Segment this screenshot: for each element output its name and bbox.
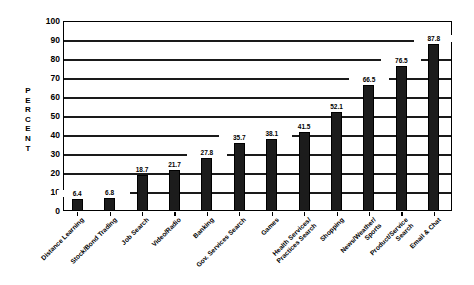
x-axis-tick (401, 212, 402, 216)
x-axis-category-label: Video/Radio (151, 216, 183, 248)
bar (201, 158, 212, 211)
y-axis-tick-label: 20 (34, 169, 60, 178)
x-axis-tick (77, 212, 78, 216)
y-axis-tick-label: 30 (34, 150, 60, 159)
x-axis-tick (239, 212, 240, 216)
x-axis-category-label: Job Search (120, 216, 151, 247)
bar-value-label: 52.1 (317, 103, 357, 110)
x-axis-tick (337, 212, 338, 216)
y-axis-tick-label: 80 (34, 55, 60, 64)
x-axis-category-line: Games (259, 216, 280, 237)
y-axis-tick-label: 0 (34, 207, 60, 216)
y-axis-tick-label: 50 (34, 112, 60, 121)
x-axis-tick (174, 212, 175, 216)
bar (363, 85, 374, 211)
bar (104, 198, 115, 211)
bar (331, 112, 342, 211)
x-axis-category-line: Job Search (120, 216, 151, 247)
bar-value-label: 87.8 (414, 35, 454, 42)
bar (299, 132, 310, 211)
bar (137, 175, 148, 211)
bar (428, 44, 439, 211)
x-axis-tick (142, 212, 143, 216)
x-axis-category-line: Banking (191, 216, 215, 240)
bar-value-label: 66.5 (349, 76, 389, 83)
y-axis-tick-label: 40 (34, 131, 60, 140)
bar (72, 199, 83, 211)
bar (266, 139, 277, 211)
x-axis-category-line: Video/Radio (151, 216, 183, 248)
x-axis-tick (369, 212, 370, 216)
bar-value-label: 41.5 (284, 123, 324, 130)
x-axis-tick (207, 212, 208, 216)
x-axis-category-label: Banking (191, 216, 215, 240)
y-axis-tick-label: 90 (34, 36, 60, 45)
bar-value-label: 27.8 (187, 149, 227, 156)
x-axis-category-line: Shopping (318, 216, 345, 243)
x-axis-tick (110, 212, 111, 216)
x-axis-category-label: Email & Chat (408, 216, 442, 250)
x-axis-category-label: Games (259, 216, 280, 237)
bar (234, 143, 245, 211)
bar-value-label: 6.8 (90, 189, 130, 196)
y-axis-tick-label: 10 (34, 188, 60, 197)
bar (169, 170, 180, 211)
x-axis-category-label: Shopping (318, 216, 345, 243)
x-axis-tick (304, 212, 305, 216)
bar (396, 66, 407, 211)
bar-chart: PERCENT 0102030405060708090100 6.46.818.… (0, 0, 474, 285)
y-axis-tick-label: 70 (34, 74, 60, 83)
x-axis-tick (272, 212, 273, 216)
bar-value-label: 21.7 (154, 161, 194, 168)
y-axis-tick-label: 100 (34, 17, 60, 26)
y-axis-tick-label: 60 (34, 93, 60, 102)
x-axis-category-line: Email & Chat (408, 216, 442, 250)
bar-value-label: 38.1 (252, 130, 292, 137)
bar-value-label: 76.5 (381, 57, 421, 64)
x-axis-tick (434, 212, 435, 216)
bars-layer: 6.46.818.721.727.835.738.141.552.166.576… (63, 21, 452, 211)
